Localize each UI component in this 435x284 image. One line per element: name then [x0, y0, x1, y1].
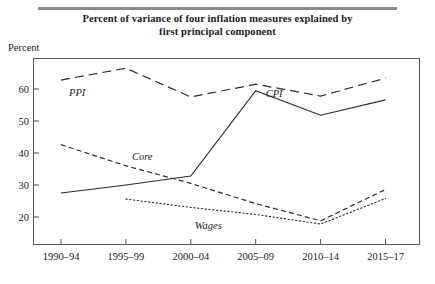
- series-line-ppi: [61, 68, 386, 97]
- chart-svg: 2030405060 1990–941995–992000–042005–092…: [0, 0, 435, 284]
- data-series-group: [61, 68, 386, 224]
- series-label-wages: Wages: [195, 220, 222, 231]
- series-line-cpi: [61, 91, 386, 193]
- y-tick-label: 40: [19, 148, 30, 159]
- x-axis-ticks: 1990–941995–992000–042005–092010–142015–…: [43, 239, 404, 262]
- series-labels-group: PPICoreCPIWages: [68, 87, 283, 231]
- y-tick-label: 50: [19, 116, 30, 127]
- series-line-wages: [126, 198, 386, 224]
- plot-frame: [34, 59, 420, 245]
- x-tick-label: 2005–09: [237, 251, 274, 262]
- series-line-core: [61, 145, 386, 221]
- chart-plot-area: 2030405060 1990–941995–992000–042005–092…: [0, 0, 435, 284]
- x-tick-label: 2010–14: [302, 251, 340, 262]
- y-tick-label: 20: [19, 212, 30, 223]
- y-axis-ticks: 2030405060: [19, 84, 40, 223]
- y-tick-label: 30: [19, 180, 30, 191]
- x-tick-label: 2000–04: [172, 251, 210, 262]
- x-tick-label: 2015–17: [367, 251, 404, 262]
- series-label-cpi: CPI: [266, 88, 283, 99]
- x-tick-label: 1990–94: [43, 251, 81, 262]
- series-label-core: Core: [132, 151, 153, 162]
- series-label-ppi: PPI: [68, 87, 86, 98]
- x-tick-label: 1995–99: [108, 251, 145, 262]
- y-tick-label: 60: [19, 84, 30, 95]
